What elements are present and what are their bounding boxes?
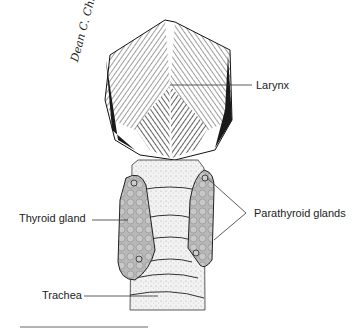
label-larynx: Larynx bbox=[256, 79, 289, 91]
label-thyroid-gland: Thyroid gland bbox=[19, 212, 86, 224]
anatomy-drawing bbox=[0, 0, 357, 329]
label-parathyroid-glands: Parathyroid glands bbox=[254, 207, 346, 219]
label-trachea: Trachea bbox=[42, 289, 82, 301]
larynx-shape bbox=[105, 20, 232, 160]
